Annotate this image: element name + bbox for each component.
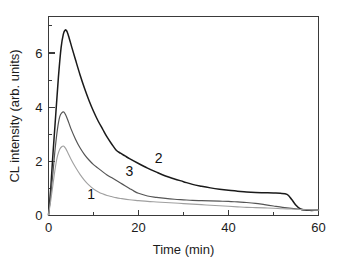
series-inline-labels: 231 bbox=[87, 150, 163, 202]
y-tick-label: 2 bbox=[35, 154, 42, 169]
y-tick-label: 4 bbox=[35, 100, 42, 115]
y-axis-tick-labels: 0246 bbox=[35, 46, 42, 223]
y-axis-title: CL intensity (arb. units) bbox=[7, 49, 22, 182]
series-label-1: 1 bbox=[87, 186, 95, 202]
x-tick-label: 0 bbox=[45, 220, 52, 235]
x-tick-label: 20 bbox=[131, 220, 145, 235]
y-tick-label: 0 bbox=[35, 208, 42, 223]
chart-figure: 0204060 0246 231 Time (min) CL intensity… bbox=[0, 0, 339, 265]
x-tick-label: 60 bbox=[311, 220, 325, 235]
x-axis-title: Time (min) bbox=[153, 242, 215, 257]
y-tick-label: 6 bbox=[35, 46, 42, 61]
series-label-2: 2 bbox=[155, 150, 163, 166]
x-axis-tick-labels: 0204060 bbox=[45, 220, 326, 235]
curve-series-1 bbox=[49, 146, 319, 215]
series-label-3: 3 bbox=[126, 163, 134, 179]
x-tick-label: 40 bbox=[221, 220, 235, 235]
cl-intensity-decay-plot: 0204060 0246 231 Time (min) CL intensity… bbox=[0, 0, 339, 265]
